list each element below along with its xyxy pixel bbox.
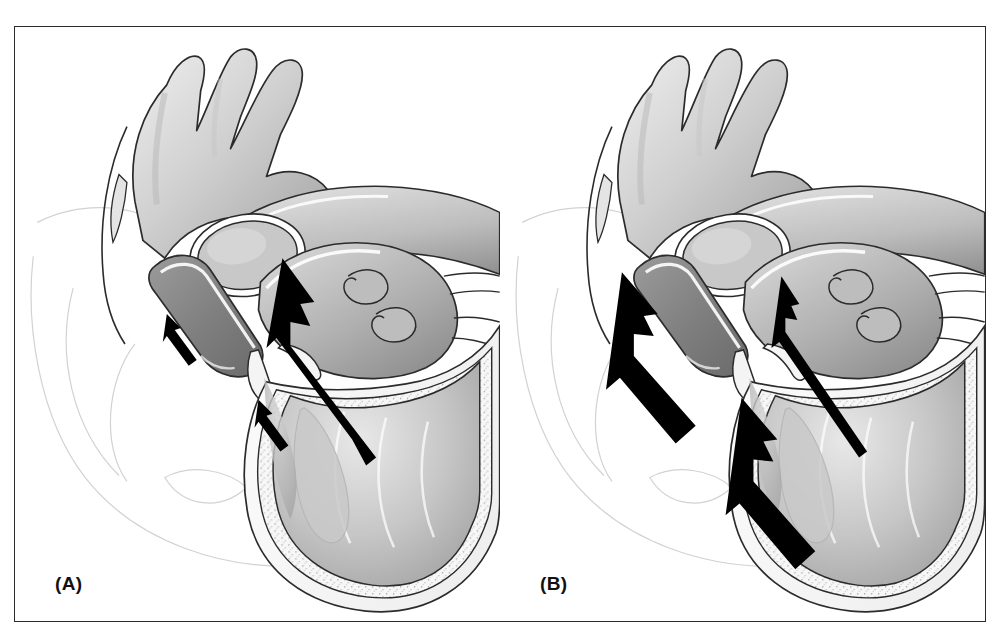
panel-a: (A) bbox=[15, 27, 500, 621]
heart-illustration-a bbox=[15, 27, 500, 621]
heart-illustration-b bbox=[500, 27, 985, 621]
figure-root: (A) bbox=[0, 0, 1001, 637]
panel-b: (B) bbox=[500, 27, 985, 621]
panel-label-b: (B) bbox=[540, 574, 567, 593]
descending-aorta-b bbox=[587, 127, 612, 344]
figure-frame: (A) bbox=[14, 26, 986, 622]
panel-label-a: (A) bbox=[55, 574, 82, 593]
descending-aorta-a bbox=[102, 127, 127, 344]
